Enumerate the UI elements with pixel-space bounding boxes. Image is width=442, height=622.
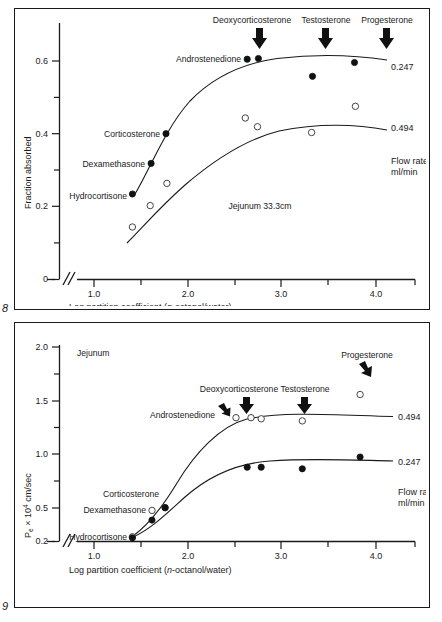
y-ticklabel-top-0.4: 0.4 bbox=[35, 129, 48, 139]
label-progesterone-top: Progesterone bbox=[361, 15, 413, 25]
label-corticosterone-top: Corticosterone bbox=[104, 129, 160, 139]
flow-rate-units-bottom: ml/min bbox=[398, 498, 425, 508]
datapoint-top-open-1 bbox=[129, 224, 135, 230]
label-corticosterone-bottom: Corticosterone bbox=[103, 489, 159, 499]
x-ticklabel-top-2.0: 2.0 bbox=[182, 289, 195, 299]
page-number-top: 8 bbox=[2, 302, 8, 314]
datapoint-bottom-filled-3 bbox=[162, 505, 168, 511]
label-testosterone-bottom: Testosterone bbox=[280, 384, 329, 394]
x-ticklabel-bottom-3.0: 3.0 bbox=[275, 551, 288, 561]
arrow-down-icon-testosterone-top bbox=[318, 28, 333, 49]
datapoint-bottom-filled-2 bbox=[149, 517, 155, 523]
arrow-down-icon-progesterone-top bbox=[379, 28, 394, 49]
series-label-top-0.247: 0.247 bbox=[391, 62, 414, 72]
datapoint-top-filled-5 bbox=[255, 55, 261, 61]
datapoint-top-open-3 bbox=[164, 180, 170, 186]
page-number-bottom: 9 bbox=[2, 600, 8, 612]
x-ticklabel-bottom-2.0: 2.0 bbox=[182, 551, 195, 561]
datapoint-bottom-open-7 bbox=[299, 418, 305, 424]
label-dexamethasone-top: Dexamethasone bbox=[82, 159, 145, 169]
arrow-down-icon-testosterone-bottom bbox=[297, 397, 312, 414]
datapoint-bottom-open-8 bbox=[357, 391, 363, 397]
annotation-top: Jejunum 33.3cm bbox=[228, 201, 291, 211]
label-deoxycorticosterone-top: Deoxycorticosterone bbox=[213, 15, 292, 25]
x-ticklabel-top-4.0: 4.0 bbox=[370, 289, 383, 299]
datapoint-top-filled-6 bbox=[309, 73, 315, 79]
datapoint-top-filled-4 bbox=[244, 56, 250, 62]
arrow-down-icon-deoxycorticosterone-top bbox=[252, 28, 267, 49]
series-label-top-0.494: 0.494 bbox=[391, 123, 414, 133]
y-ticklabel-top-0.2: 0.2 bbox=[35, 201, 48, 211]
arrow-down-icon-progesterone-bottom bbox=[359, 361, 372, 377]
label-deoxycorticosterone-bottom: Deoxycorticosterone bbox=[200, 384, 279, 394]
chart-panel-top: 0 0.2 0.4 0.6 1.0 2.0 3.0 4.0 Fraction a… bbox=[14, 8, 430, 310]
y-ticklabel-bottom-0.5: 0.5 bbox=[35, 503, 48, 513]
annotation-bottom: Jejunum bbox=[77, 348, 109, 358]
datapoint-top-open-2 bbox=[147, 202, 153, 208]
datapoint-bottom-filled-7 bbox=[357, 454, 363, 460]
datapoint-top-filled-3 bbox=[163, 131, 169, 137]
datapoint-top-filled-1 bbox=[129, 191, 135, 197]
datapoint-bottom-filled-1 bbox=[129, 535, 135, 541]
y-axis-title-bottom: Pe × 104 cm/sec bbox=[22, 473, 34, 538]
flow-rate-units-top: ml/min bbox=[391, 167, 418, 177]
datapoint-top-open-6 bbox=[308, 129, 314, 135]
x-axis-title-top: Log partition coefficient (n-octanol/wat… bbox=[69, 302, 231, 306]
y-ticklabel-top-0: 0 bbox=[43, 274, 48, 284]
datapoint-top-filled-2 bbox=[148, 160, 154, 166]
datapoint-top-open-5 bbox=[254, 124, 260, 130]
label-androstenedione-top: Androstenedione bbox=[176, 54, 241, 64]
datapoint-bottom-open-2 bbox=[149, 507, 155, 513]
arrow-down-icon-androstenedione-bottom bbox=[218, 403, 231, 417]
datapoint-bottom-filled-5 bbox=[258, 464, 264, 470]
flow-rate-caption-top: Flow rate bbox=[391, 156, 426, 166]
datapoint-bottom-open-6 bbox=[258, 416, 264, 422]
label-androstenedione-bottom: Androstenedione bbox=[150, 410, 215, 420]
y-ticklabel-bottom-1.0: 1.0 bbox=[35, 449, 48, 459]
datapoint-top-open-7 bbox=[352, 103, 358, 109]
curve-bottom-0.247 bbox=[133, 459, 393, 537]
datapoint-bottom-filled-4 bbox=[244, 464, 250, 470]
y-ticklabel-bottom-2.0: 2.0 bbox=[35, 342, 48, 352]
y-axis-title-top: Fraction absorbed bbox=[23, 136, 33, 209]
datapoint-bottom-filled-6 bbox=[299, 466, 305, 472]
chart-panel-bottom: 0.2 0.5 1.0 1.5 2.0 1.0 2.0 3.0 4.0 Pe ×… bbox=[14, 322, 430, 608]
x-ticklabel-bottom-4.0: 4.0 bbox=[370, 551, 383, 561]
datapoint-bottom-open-4 bbox=[233, 415, 239, 421]
figure-page: 0 0.2 0.4 0.6 1.0 2.0 3.0 4.0 Fraction a… bbox=[0, 0, 442, 622]
arrow-down-icon-deoxycorticosterone-bottom bbox=[239, 397, 254, 414]
curve-top-0.247 bbox=[135, 56, 387, 194]
x-axis-title-bottom: Log partition coefficient (n-octanol/wat… bbox=[69, 565, 231, 575]
series-label-bottom-0.494: 0.494 bbox=[398, 412, 421, 422]
y-ticklabel-bottom-0.2: 0.2 bbox=[35, 536, 48, 546]
datapoint-top-filled-7 bbox=[351, 59, 357, 65]
x-ticklabel-top-1.0: 1.0 bbox=[88, 289, 101, 299]
label-progesterone-bottom: Progesterone bbox=[341, 350, 393, 360]
label-dexamethasone-bottom: Dexamethasone bbox=[83, 505, 146, 515]
y-ticklabel-bottom-1.5: 1.5 bbox=[35, 396, 48, 406]
label-hydrocortisone-top: Hydrocortisone bbox=[69, 191, 127, 201]
chart-bottom-svg: 0.2 0.5 1.0 1.5 2.0 1.0 2.0 3.0 4.0 Pe ×… bbox=[15, 323, 426, 604]
label-testosterone-top: Testosterone bbox=[301, 15, 350, 25]
datapoint-bottom-open-5 bbox=[248, 415, 254, 421]
series-label-bottom-0.247: 0.247 bbox=[398, 457, 421, 467]
x-ticklabel-bottom-1.0: 1.0 bbox=[88, 551, 101, 561]
curve-bottom-0.494 bbox=[133, 414, 393, 536]
datapoint-top-open-4 bbox=[242, 115, 248, 121]
chart-top-svg: 0 0.2 0.4 0.6 1.0 2.0 3.0 4.0 Fraction a… bbox=[15, 9, 426, 306]
flow-rate-caption-bottom: Flow rate bbox=[398, 487, 426, 497]
x-ticklabel-top-3.0: 3.0 bbox=[275, 289, 288, 299]
label-hydrocortisone-bottom: Hydrocortisone bbox=[69, 532, 127, 542]
y-ticklabel-top-0.6: 0.6 bbox=[35, 56, 48, 66]
